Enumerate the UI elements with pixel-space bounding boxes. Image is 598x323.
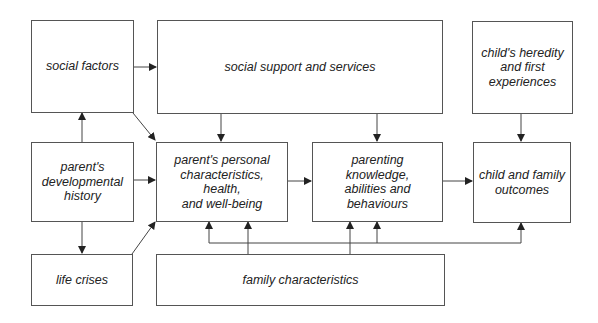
node-label: social factors [46,59,119,74]
node-label: life crises [56,273,108,288]
node-life-crises: life crises [31,254,133,306]
node-parent-personal: parent's personal characteristics, healt… [156,142,288,222]
node-social-support: social support and services [157,20,443,114]
node-social-factors: social factors [31,20,134,113]
node-label: parent's personal characteristics, healt… [161,153,283,211]
node-child-outcomes: child and family outcomes [473,142,571,223]
node-label: child's heredity and first experiences [481,46,563,90]
arrow-social-factors-to-personal [133,113,155,140]
node-parent-dev-history: parent's developmental history [31,142,134,222]
arrow-life-crises-to-personal [132,222,155,254]
node-label: family characteristics [243,273,359,288]
node-child-heredity: child's heredity and first experiences [472,21,573,114]
node-label: parent's developmental history [42,160,123,204]
node-label: child and family outcomes [479,168,565,197]
node-label: parenting knowledge, abilities and behav… [344,153,410,211]
node-parenting-knowledge: parenting knowledge, abilities and behav… [312,142,443,222]
node-family-characteristics: family characteristics [156,254,445,306]
node-label: social support and services [225,60,376,75]
